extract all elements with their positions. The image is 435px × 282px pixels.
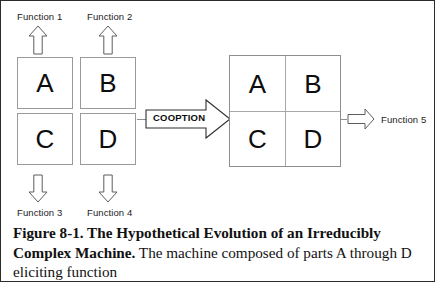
part-letter-c: C	[36, 126, 55, 152]
arrow-right-function-5-icon	[347, 108, 375, 130]
label-function-2: Function 2	[87, 11, 132, 22]
arrow-up-function-2-icon	[98, 25, 118, 55]
machine-cell-b: B	[285, 56, 340, 111]
figure-caption: Figure 8-1. The Hypothetical Evolution o…	[13, 223, 425, 282]
arrow-up-function-1-icon	[28, 25, 48, 55]
label-function-3: Function 3	[17, 207, 62, 218]
part-box-c: C	[17, 113, 73, 165]
machine-letter-b: B	[304, 71, 321, 97]
arrow-down-function-3-icon	[28, 174, 48, 203]
part-letter-a: A	[36, 70, 53, 96]
caption-subject: Machine.	[75, 244, 135, 261]
part-box-d: D	[80, 113, 136, 165]
machine-letter-c: C	[248, 126, 267, 152]
label-function-1: Function 1	[17, 11, 62, 22]
part-box-a: A	[17, 57, 73, 109]
part-box-b: B	[80, 57, 136, 109]
machine-cell-c: C	[230, 111, 285, 166]
part-letter-b: B	[99, 70, 116, 96]
part-letter-d: D	[99, 126, 118, 152]
label-function-5: Function 5	[381, 114, 426, 125]
machine-letter-d: D	[304, 126, 323, 152]
machine-cell-d: D	[285, 111, 340, 166]
machine-cell-a: A	[230, 56, 285, 111]
machine-grid: A B C D	[229, 55, 341, 167]
caption-body: The machine composed of parts A through …	[13, 244, 412, 281]
machine-letter-a: A	[249, 71, 266, 97]
cooption-label: COOPTION	[153, 112, 205, 123]
figure-container: Function 1 Function 2 A B C D Function 3	[0, 0, 435, 282]
cooption-arrow: COOPTION	[145, 99, 231, 139]
arrow-down-function-4-icon	[98, 174, 118, 203]
label-function-4: Function 4	[87, 207, 132, 218]
